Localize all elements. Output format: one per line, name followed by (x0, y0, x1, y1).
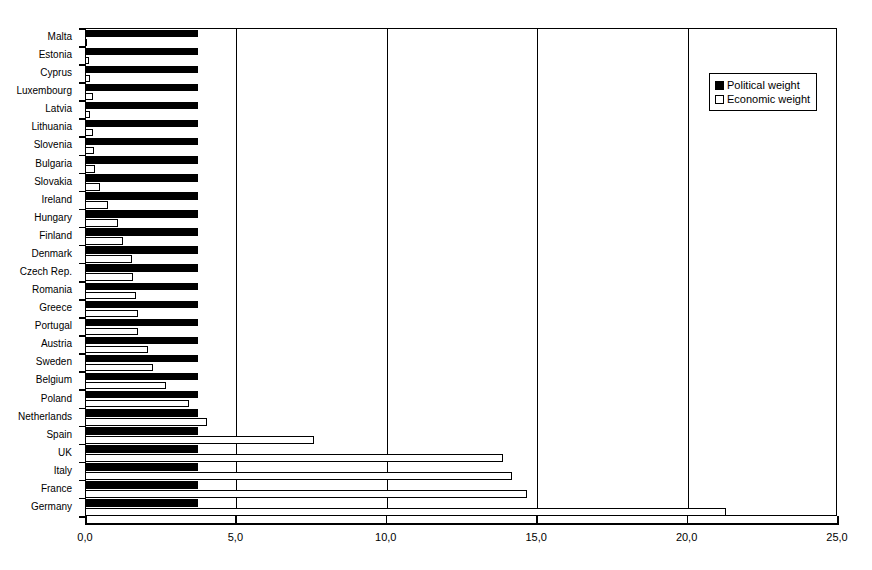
bar-economic-weight (85, 39, 87, 47)
bar-political-weight (85, 319, 198, 327)
bar-political-weight (85, 174, 198, 182)
y-axis-tick-label: Portugal (0, 320, 72, 331)
bar-political-weight (85, 264, 198, 272)
bar-economic-weight (85, 129, 93, 137)
bar-row (85, 426, 837, 444)
bar-political-weight (85, 210, 198, 218)
bar-political-weight (85, 391, 198, 399)
y-axis-tick (79, 353, 85, 355)
bar-row (85, 118, 837, 136)
y-axis-tick-label: Estonia (0, 49, 72, 60)
y-axis-tick (79, 462, 85, 464)
legend-label-political: Political weight (727, 78, 800, 92)
bar-political-weight (85, 463, 198, 471)
bar-political-weight (85, 66, 198, 74)
y-axis-tick (79, 82, 85, 84)
y-axis-tick (79, 173, 85, 175)
y-axis-tick-label: France (0, 483, 72, 494)
y-axis-tick (79, 191, 85, 193)
hollow-square-icon (715, 95, 724, 104)
bar-political-weight (85, 427, 198, 435)
bar-row (85, 191, 837, 209)
bar-political-weight (85, 373, 198, 381)
y-axis-tick (79, 46, 85, 48)
bar-political-weight (85, 228, 198, 236)
y-axis-tick-label: Ireland (0, 194, 72, 205)
bar-economic-weight (85, 508, 726, 516)
filled-square-icon (715, 81, 724, 90)
y-axis-tick-label: Finland (0, 230, 72, 241)
y-axis-tick-label: Greece (0, 302, 72, 313)
y-axis-tick (79, 371, 85, 373)
bar-political-weight (85, 48, 198, 56)
y-axis-tick-label: Poland (0, 393, 72, 404)
bar-economic-weight (85, 490, 527, 498)
bar-political-weight (85, 102, 198, 110)
x-axis-tick-label: 5,0 (213, 531, 257, 544)
y-axis-tick (79, 263, 85, 265)
y-axis-tick (79, 480, 85, 482)
y-axis-tick-label: Slovakia (0, 176, 72, 187)
bar-economic-weight (85, 75, 90, 83)
x-axis-tick (386, 516, 388, 525)
bar-economic-weight (85, 147, 94, 155)
y-axis-tick-label: Cyprus (0, 67, 72, 78)
x-axis-tick (536, 516, 538, 525)
bar-economic-weight (85, 400, 189, 408)
bar-economic-weight (85, 93, 93, 101)
y-axis-tick (79, 209, 85, 211)
x-axis-tick (837, 516, 839, 525)
y-axis-tick-label: Belgium (0, 374, 72, 385)
bar-row (85, 281, 837, 299)
bar-political-weight (85, 138, 198, 146)
bar-economic-weight (85, 201, 108, 209)
bar-political-weight (85, 409, 198, 417)
y-axis-tick (79, 155, 85, 157)
bar-political-weight (85, 84, 198, 92)
bar-row (85, 263, 837, 281)
bar-economic-weight (85, 183, 100, 191)
bar-economic-weight (85, 472, 512, 480)
y-axis-tick-label: Germany (0, 501, 72, 512)
bar-economic-weight (85, 364, 153, 372)
y-axis-tick-label: Romania (0, 284, 72, 295)
bar-political-weight (85, 481, 198, 489)
bar-political-weight (85, 499, 198, 507)
x-axis-tick (235, 516, 237, 525)
y-axis-tick-label: Italy (0, 465, 72, 476)
bar-row (85, 408, 837, 426)
bar-economic-weight (85, 273, 133, 281)
y-axis-tick (79, 498, 85, 500)
bar-political-weight (85, 30, 198, 38)
x-axis-tick (687, 516, 689, 525)
bar-row (85, 335, 837, 353)
y-axis-tick (79, 444, 85, 446)
y-axis-tick-label: Malta (0, 31, 72, 42)
y-axis-tick (79, 317, 85, 319)
bar-row (85, 371, 837, 389)
bar-economic-weight (85, 418, 207, 426)
y-axis-tick-label: Luxembourg (0, 85, 72, 96)
bar-political-weight (85, 246, 198, 254)
bar-row (85, 173, 837, 191)
y-axis-tick-label: Slovenia (0, 139, 72, 150)
y-axis-tick (79, 299, 85, 301)
y-axis-tick (79, 28, 85, 30)
bar-row (85, 245, 837, 263)
bar-row (85, 317, 837, 335)
bar-economic-weight (85, 237, 123, 245)
chart-container: MaltaEstoniaCyprusLuxembourgLatviaLithua… (0, 0, 872, 570)
bar-row (85, 462, 837, 480)
y-axis-tick (79, 426, 85, 428)
bar-row (85, 444, 837, 462)
bar-row (85, 227, 837, 245)
bar-political-weight (85, 337, 198, 345)
bar-economic-weight (85, 382, 166, 390)
y-axis-tick-label: UK (0, 447, 72, 458)
bar-row (85, 155, 837, 173)
bar-row (85, 136, 837, 154)
y-axis-tick (79, 118, 85, 120)
y-axis-tick (79, 64, 85, 66)
bar-political-weight (85, 301, 198, 309)
bar-economic-weight (85, 346, 148, 354)
